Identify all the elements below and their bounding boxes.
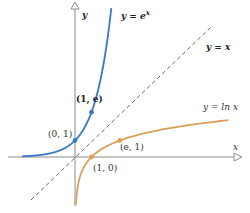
ln-label: y = ln x bbox=[202, 102, 238, 112]
point-1-e bbox=[89, 110, 94, 115]
y-axis-arrow-icon bbox=[71, 2, 79, 9]
point-e-1-label: (e, 1) bbox=[120, 142, 144, 152]
point-0-1 bbox=[73, 138, 78, 143]
function-graph: y x y = ex y = x y = ln x (0, 1) (1, e) … bbox=[0, 0, 250, 213]
identity-line bbox=[31, 27, 211, 200]
point-1-0 bbox=[89, 155, 94, 160]
identity-label: y = x bbox=[205, 42, 231, 52]
x-axis-arrow-icon bbox=[234, 153, 242, 161]
point-0-1-label: (0, 1) bbox=[48, 129, 72, 139]
y-axis-label: y bbox=[81, 10, 88, 20]
exp-label: y = ex bbox=[120, 8, 151, 21]
point-1-0-label: (1, 0) bbox=[93, 163, 117, 173]
point-1-e-label: (1, e) bbox=[76, 94, 103, 105]
x-axis-label: x bbox=[233, 142, 238, 152]
